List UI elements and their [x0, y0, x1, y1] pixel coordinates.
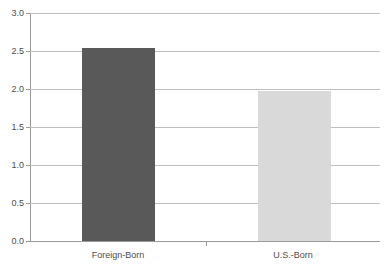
plot-area: 3.0 2.5 2.0 1.5 1.0 0.5 [30, 13, 380, 241]
y-tick-label-3-0: 3.0 [11, 9, 24, 18]
y-tick-mark [26, 51, 30, 52]
bar-us-born [258, 91, 331, 241]
gridline [30, 13, 380, 14]
x-axis-baseline [30, 241, 380, 242]
bar-foreign-born [82, 48, 155, 241]
y-tick-label-1-0: 1.0 [11, 161, 24, 170]
y-tick-label-1-5: 1.5 [11, 123, 24, 132]
y-tick-label-2-5: 2.5 [11, 47, 24, 56]
y-tick-mark [26, 127, 30, 128]
y-tick-label-0-0: 0.0 [11, 237, 24, 246]
y-tick-mark [26, 241, 30, 242]
x-label-foreign-born: Foreign-Born [30, 250, 206, 261]
x-label-us-born: U.S.-Born [206, 250, 380, 261]
category-divider-tick [206, 241, 207, 246]
y-tick-mark [26, 13, 30, 14]
y-tick-mark [26, 165, 30, 166]
y-tick-mark [26, 203, 30, 204]
y-tick-label-2-0: 2.0 [11, 85, 24, 94]
y-tick-mark [26, 89, 30, 90]
x-axis-labels: Foreign-Born U.S.-Born [30, 250, 380, 266]
y-tick-label-0-5: 0.5 [11, 199, 24, 208]
bar-chart: 3.0 2.5 2.0 1.5 1.0 0.5 [0, 0, 390, 272]
